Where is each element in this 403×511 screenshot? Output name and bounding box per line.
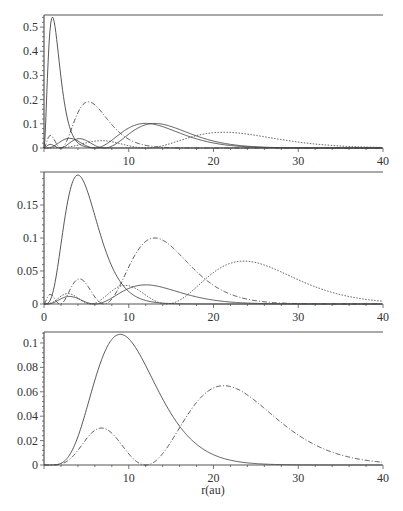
x-tick-label: 10 [123, 471, 135, 485]
plot-panel-top: 1020304000.10.20.30.40.5 [23, 15, 389, 168]
x-tick-label: 40 [377, 310, 389, 324]
y-tick-label: 0.5 [23, 20, 38, 34]
series-curve-4d [44, 386, 382, 465]
series-curve-3s-like [44, 238, 382, 304]
x-tick-label: 20 [208, 154, 220, 168]
plot-panel-bottom: 1020304000.020.040.060.080.1 [17, 332, 389, 485]
series-curve-3d [44, 334, 382, 465]
y-tick-label: 0.02 [17, 434, 38, 448]
series-curve-n-2-2p- [44, 123, 382, 148]
series-curve-n-1 [44, 17, 382, 148]
y-tick-label: 0 [32, 141, 38, 155]
x-tick-label: 30 [292, 310, 304, 324]
x-tick-label: 40 [377, 154, 389, 168]
y-tick-label: 0 [32, 297, 38, 311]
series-curve-4 [44, 261, 382, 304]
plot-panel-middle: 01020304000.050.10.15 [17, 172, 389, 324]
x-tick-label: 40 [377, 471, 389, 485]
x-tick-label: 30 [292, 154, 304, 168]
y-tick-label: 0.08 [17, 360, 38, 374]
x-tick-label: 30 [292, 471, 304, 485]
x-axis-label: r(au) [201, 483, 224, 497]
y-tick-label: 0.1 [23, 336, 38, 350]
y-tick-label: 0.1 [23, 117, 38, 131]
y-tick-label: 0.2 [23, 93, 38, 107]
radial-distribution-chart: 1020304000.10.20.30.40.5 01020304000.050… [0, 0, 403, 511]
y-tick-label: 0.15 [17, 198, 38, 212]
x-tick-label: 20 [208, 310, 220, 324]
y-tick-label: 0.06 [17, 385, 38, 399]
y-tick-label: 0.1 [23, 231, 38, 245]
y-tick-label: 0 [32, 458, 38, 472]
series-curve-n-3 [44, 123, 382, 148]
x-tick-label: 10 [123, 154, 135, 168]
y-tick-label: 0.05 [17, 264, 38, 278]
y-tick-label: 0.4 [23, 44, 38, 58]
series-curve-3p [44, 285, 382, 304]
y-tick-label: 0.04 [17, 409, 38, 423]
x-tick-label: 0 [41, 310, 47, 324]
x-tick-label: 10 [123, 310, 135, 324]
y-tick-label: 0.3 [23, 68, 38, 82]
